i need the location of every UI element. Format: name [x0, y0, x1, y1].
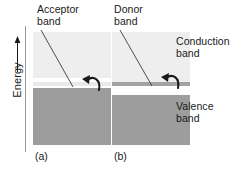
panel-a-valence-band — [33, 88, 111, 145]
panel-a-conduction-band — [33, 32, 111, 78]
panel-b-donor-level — [112, 82, 190, 86]
valence-band-label: Valence band — [176, 101, 214, 124]
panel-b-caption: (b) — [114, 150, 127, 162]
band-diagram-figure: Energy Acceptor band Donor band Conducti… — [0, 0, 250, 169]
energy-axis-label: Energy — [11, 44, 23, 116]
panel-a-acceptor-level — [33, 82, 111, 86]
donor-band-label: Donor band — [114, 4, 143, 27]
panel-a-caption: (a) — [35, 150, 48, 162]
conduction-band-label: Conduction band — [176, 36, 230, 59]
acceptor-band-label: Acceptor band — [37, 4, 79, 27]
energy-axis-line — [25, 26, 26, 152]
